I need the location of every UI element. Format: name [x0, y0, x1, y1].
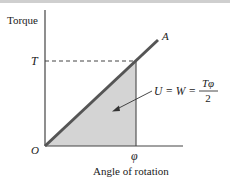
- formula-denominator: 2: [205, 92, 211, 104]
- line-end-label-A: A: [161, 30, 169, 42]
- origin-label: O: [31, 144, 39, 156]
- x-axis-label: Angle of rotation: [93, 165, 169, 177]
- torque-rotation-diagram: Torque T O A φ Angle of rotation U = W =…: [0, 0, 230, 179]
- angle-label-phi: φ: [131, 149, 138, 163]
- formula-numerator: Tφ: [202, 77, 214, 89]
- y-axis-label: Torque: [7, 14, 38, 26]
- formula-lhs: U = W =: [154, 85, 196, 97]
- torque-level-label: T: [31, 54, 39, 68]
